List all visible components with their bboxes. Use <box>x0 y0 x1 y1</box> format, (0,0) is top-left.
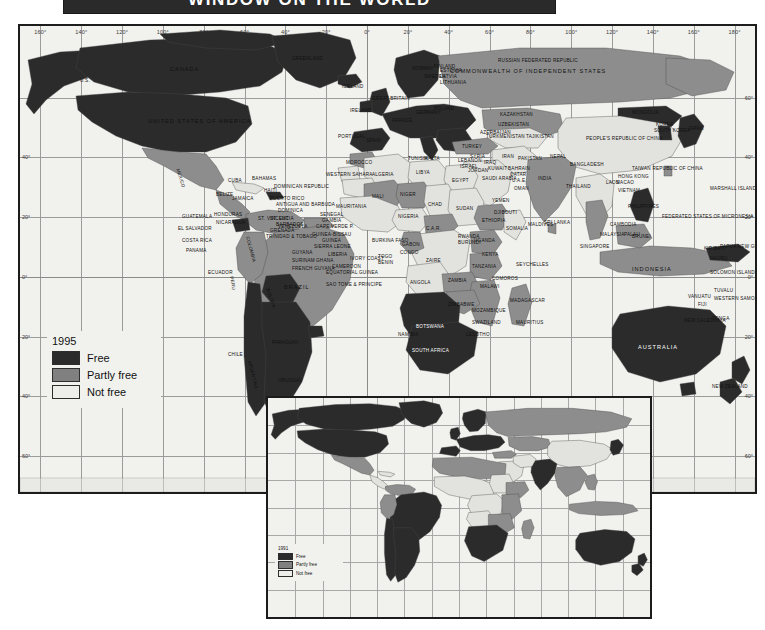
legend-row-not-free: Not free <box>52 385 156 399</box>
country-label-cuba: CUBA <box>228 178 242 184</box>
country-label-iraq: IRAQ <box>484 160 496 166</box>
country-label-panama: PANAMA <box>186 248 207 254</box>
country-label-maldives: MALDIVES <box>528 222 553 228</box>
country-label-korea: KOREA <box>656 122 673 128</box>
country-label-egypt: EGYPT <box>452 178 469 184</box>
country-label-south-korea: SOUTH KOREA <box>654 128 690 134</box>
inset-land-cuba <box>378 471 395 477</box>
country-label-bahamas: BAHAMAS <box>252 176 276 182</box>
country-label-ghana: GHANA <box>316 258 334 264</box>
country-label-poland: POLAND <box>434 106 454 112</box>
country-label-mongolia: MONGOLIA <box>632 110 659 116</box>
country-label-venezuela: VENEZUELA <box>278 224 308 230</box>
country-label-el-salvador: EL SALVADOR <box>178 226 212 232</box>
country-label-fiji: FIJI <box>698 302 707 308</box>
country-label-congo: CONGO <box>400 250 419 256</box>
country-label-uzbekistan: UZBEKISTAN <box>498 122 529 128</box>
country-label-zimbabwe: ZIMBABWE <box>448 302 475 308</box>
country-label-gambia: GAMBIA <box>322 218 341 224</box>
inset-land-seasia <box>555 467 587 497</box>
country-label-botswana: BOTSWANA <box>416 324 444 330</box>
inset-legend-row-partly-free: Partly free <box>278 561 340 569</box>
country-label-tanzania: TANZANIA <box>472 264 496 270</box>
country-label-liberia: LIBERIA <box>328 252 347 258</box>
country-label-sao-tome-principe: SAO TOME & PRINCIPE <box>326 282 382 288</box>
country-label-angola: ANGOLA <box>410 280 431 286</box>
country-label-indonesia: INDONESIA <box>632 266 672 273</box>
country-label-lebanon: LEBANON <box>458 158 482 164</box>
inset-land-centralasia <box>508 437 551 451</box>
country-label-kenya: KENYA <box>482 252 498 258</box>
country-label-honduras: HONDURAS <box>214 212 242 218</box>
inset-land-madagascar <box>522 519 534 539</box>
country-label-zambia: ZAMBIA <box>448 278 467 284</box>
legend-row-free: Free <box>52 351 156 365</box>
country-label-norway: NORWAY <box>412 66 434 72</box>
country-label-zaire: ZAIRE <box>426 258 441 264</box>
land-britain <box>370 88 390 116</box>
country-label-yemen: YEMEN <box>492 198 510 204</box>
inset-land-turkey <box>493 451 517 459</box>
country-label-turkey: TURKEY <box>462 144 482 150</box>
country-label-malaysia: MALAYSIA <box>600 232 625 238</box>
country-label-solomon-islands: SOLOMON ISLANDS <box>710 270 757 276</box>
country-label-malawi: MALAWI <box>480 284 499 290</box>
page-title: WINDOW ON THE WORLD <box>63 0 556 14</box>
country-label-senegal: SENEGAL <box>320 212 343 218</box>
country-label-marshall-islands: MARSHALL ISLANDS <box>710 186 757 192</box>
country-label-new-caledonia: NEW CALEDONIA <box>684 318 726 324</box>
country-label-qatar: QATAR <box>510 172 526 178</box>
country-label-federated-states-of-micronesia: FEDERATED STATES OF MICRONESIA <box>662 214 753 220</box>
country-label-iran: IRAN <box>502 154 514 160</box>
country-label-benin: BENIN <box>378 260 393 266</box>
country-label-taiwan-republic-of-china: TAIWAN REPUBLIC OF CHINA <box>632 166 703 172</box>
country-label-swaziland: SWAZILAND <box>472 320 501 326</box>
country-label-u-a-e: U.A.E. <box>512 178 527 184</box>
country-label-laos: LAOS <box>606 180 619 186</box>
country-label-great-britain: GREAT BRITAIN <box>372 96 410 102</box>
country-label-kuwait: KUWAIT <box>488 166 507 172</box>
country-label-south-africa: SOUTH AFRICA <box>412 348 449 354</box>
country-label-portugal: PORTUGAL <box>338 134 365 140</box>
country-label-guyana: GUYANA <box>292 250 313 256</box>
inset-legend-label-free: Free <box>296 554 305 559</box>
country-label-madagascar: MADAGASCAR <box>510 298 545 304</box>
inset-swatch-free <box>278 553 293 561</box>
country-label-western-sahara: WESTERN SAHARA <box>326 172 373 178</box>
country-label-chad: CHAD <box>428 202 442 208</box>
country-label-cape-verde-p: CAPE VERDE P. <box>316 224 354 230</box>
swatch-free <box>52 351 80 365</box>
inset-world-map: 1991 Free Partly free Not free <box>266 396 652 619</box>
country-label-guinea: GUINEA <box>322 238 341 244</box>
legend-label-free: Free <box>87 352 110 364</box>
country-label-comoros: COMOROS <box>492 276 518 282</box>
country-label-australia: AUSTRALIA <box>638 344 678 351</box>
country-label-gabon: GABON <box>402 242 420 248</box>
inset-land-iberia <box>440 446 461 456</box>
inset-legend-row-free: Free <box>278 553 340 561</box>
country-label-uganda: UGANDA <box>474 238 495 244</box>
land-tasmania <box>680 382 696 396</box>
country-label-nepal: NEPAL <box>550 154 566 160</box>
legend-label-not-free: Not free <box>87 386 126 398</box>
country-label-canada: CANADA <box>170 66 199 73</box>
country-label-libya: LIBYA <box>416 170 430 176</box>
country-label-cambodia: CAMBODIA <box>610 222 637 228</box>
inset-legend-label-partly-free: Partly free <box>296 562 317 567</box>
inset-land-britain <box>450 427 460 440</box>
country-label-sierra-leone: SIERRA LEONE <box>314 244 351 250</box>
country-label-russian-federated-republic: RUSSIAN FEDERATED REPUBLIC <box>498 58 578 64</box>
country-label-vietnam: VIETNAM <box>618 188 640 194</box>
country-label-azerbaijan: AZERBAIJAN <box>480 130 511 136</box>
country-label-puerto-rico: PUERTO RICO <box>270 196 305 202</box>
country-label-vanuatu: VANUATU <box>688 294 711 300</box>
country-label-people-s-republic-of-china: PEOPLE'S REPUBLIC OF CHINA <box>586 136 662 142</box>
country-label-c-a-r: C.A.R. <box>426 226 441 232</box>
country-label-greenland: GREENLAND <box>292 56 323 62</box>
land-cuba <box>232 182 264 194</box>
country-label-st-vincent: ST. VINCENT <box>258 216 289 222</box>
country-label-bangladesh: BANGLADESH <box>570 162 604 168</box>
country-label-morocco: MOROCCO <box>346 160 372 166</box>
country-label-western-samoa: WESTERN SAMOA <box>714 296 757 302</box>
country-label-france: FRANCE <box>392 118 412 124</box>
